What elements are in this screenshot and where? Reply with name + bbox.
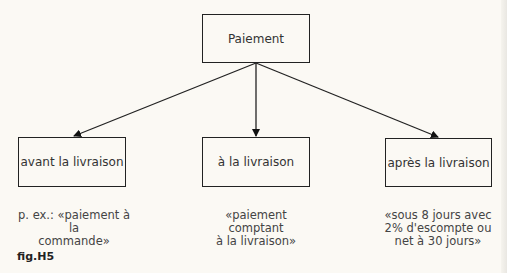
node-label: avant la livraison <box>20 155 123 169</box>
arrow-to-right <box>256 63 438 137</box>
note-before-delivery: p. ex.: «paiement à la commande» <box>16 209 132 248</box>
node-before-delivery: avant la livraison <box>18 137 126 187</box>
arrow-to-left <box>74 63 256 136</box>
note-at-delivery: «paiement comptant à la livraison» <box>196 209 316 248</box>
node-after-delivery: après la livraison <box>385 138 492 187</box>
node-label: après la livraison <box>387 156 489 170</box>
root-node-label: Paiement <box>228 32 284 46</box>
figure-label: fig.H5 <box>17 250 54 263</box>
root-node-paiement: Paiement <box>202 14 310 63</box>
node-label: à la livraison <box>218 155 294 169</box>
node-at-delivery: à la livraison <box>202 137 310 187</box>
note-after-delivery: «sous 8 jours avec 2% d'escompte ou net … <box>380 209 496 248</box>
